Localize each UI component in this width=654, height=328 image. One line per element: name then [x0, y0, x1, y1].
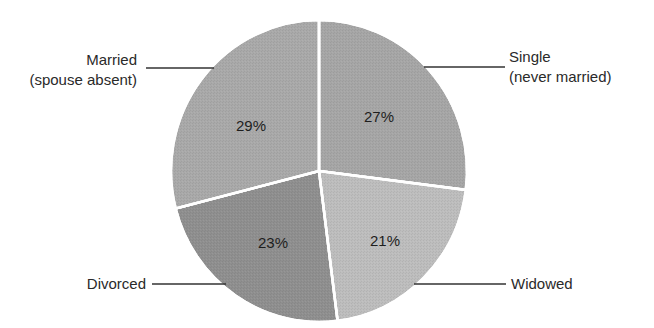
category-sublabel-single: (never married) [509, 68, 612, 85]
pie-chart: 27% 21% 23% 29% Married (spouse absent) … [0, 0, 654, 328]
category-label-divorced: Divorced [87, 275, 146, 292]
pie-texture [171, 20, 467, 322]
category-label-single: Single [509, 48, 551, 65]
slice-label-widowed: 21% [370, 232, 400, 249]
slice-label-divorced: 23% [258, 234, 288, 251]
slice-label-married: 29% [236, 117, 266, 134]
slice-label-single: 27% [364, 108, 394, 125]
category-label-widowed: Widowed [511, 275, 573, 292]
category-sublabel-married: (spouse absent) [29, 71, 137, 88]
slice-single-texture [319, 20, 467, 190]
category-label-married: Married [86, 51, 137, 68]
